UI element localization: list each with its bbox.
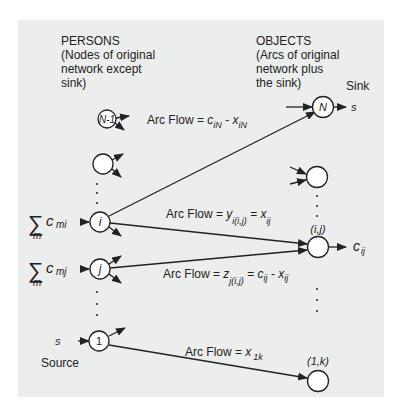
- outflow-cij: c ij: [353, 238, 366, 256]
- node-1-source: 1: [89, 331, 109, 351]
- arrow-out: [109, 274, 121, 283]
- supply-j: ∑ c mj m: [28, 258, 67, 288]
- node-N-sink: N: [313, 97, 334, 118]
- svg-text:sink): sink): [61, 76, 86, 90]
- svg-text:c: c: [46, 212, 54, 229]
- arc-label-j-ij: Arc Flow = zj(i,j) = cij - xij: [163, 267, 289, 286]
- node-j: j: [90, 259, 110, 279]
- sink-symbol: s: [351, 101, 357, 113]
- svg-text:ij: ij: [361, 246, 366, 256]
- svg-text:Arc Flow = zj(i,j) = cij - xij: Arc Flow = zj(i,j) = cij - xij: [163, 267, 289, 286]
- arrow-out: [112, 154, 123, 160]
- svg-text:(Nodes of original: (Nodes of original: [61, 48, 155, 62]
- node-i: i: [90, 212, 110, 232]
- svg-text:(Arcs of original: (Arcs of original: [256, 48, 339, 62]
- svg-text:m: m: [33, 277, 41, 288]
- svg-text:network except: network except: [61, 62, 142, 76]
- arrow-in: [290, 180, 306, 184]
- svg-text:N: N: [319, 101, 327, 113]
- node-ij-label: (i,j): [310, 223, 326, 235]
- svg-text:i: i: [99, 215, 102, 229]
- svg-text:network plus: network plus: [256, 62, 323, 76]
- svg-text:m: m: [33, 230, 41, 241]
- arc-label-iN: Arc Flow = ciN - xiN: [147, 113, 248, 130]
- arrow-out: [109, 256, 121, 264]
- svg-text:N-1: N-1: [99, 114, 115, 125]
- objects-header: OBJECTS (Arcs of original network plus t…: [256, 34, 339, 90]
- node-1k: [308, 371, 329, 392]
- sink-label: Sink: [346, 79, 370, 93]
- arc-j-to-ij: [110, 250, 307, 268]
- arc-i-to-ij: [110, 223, 307, 244]
- svg-text:the sink): the sink): [256, 76, 301, 90]
- node-person-empty: [93, 154, 113, 174]
- svg-text:Arc Flow = ciN - xiN: Arc Flow = ciN - xiN: [147, 113, 248, 130]
- node-ij: [308, 237, 329, 258]
- svg-text:c: c: [46, 259, 54, 276]
- node-n-minus-1: N-1: [98, 110, 116, 128]
- svg-text:c: c: [353, 238, 360, 254]
- node-1k-label: (1,k): [307, 355, 329, 367]
- ellipsis-dots: [96, 183, 98, 204]
- persons-header: PERSONS (Nodes of original network excep…: [61, 34, 155, 90]
- node-object-empty: [307, 167, 328, 188]
- arrow-out: [109, 328, 125, 336]
- ellipsis-dots: [96, 291, 98, 316]
- svg-text:mj: mj: [56, 266, 67, 277]
- arrow-out: [109, 227, 121, 236]
- arrow-in: [290, 167, 306, 174]
- ellipsis-dots: [316, 288, 318, 312]
- arc-i-to-N: [109, 112, 315, 216]
- svg-text:1: 1: [96, 335, 102, 347]
- arrow-out: [116, 116, 129, 118]
- persons-title: PERSONS: [61, 34, 120, 48]
- arrow-out: [112, 169, 121, 177]
- objects-title: OBJECTS: [256, 34, 311, 48]
- svg-text:mi: mi: [56, 219, 67, 230]
- supply-i: ∑ c mi m: [28, 211, 67, 241]
- arrow-out: [115, 123, 124, 130]
- svg-text:Arc Flow = yi(i,j) = xij: Arc Flow = yi(i,j) = xij: [166, 207, 272, 226]
- source-symbol: s: [55, 335, 61, 347]
- ellipsis-dots: [316, 195, 318, 217]
- network-diagram: PERSONS (Nodes of original network excep…: [0, 0, 402, 415]
- arc-label-i-ij: Arc Flow = yi(i,j) = xij: [166, 207, 272, 226]
- source-label: Source: [41, 356, 79, 370]
